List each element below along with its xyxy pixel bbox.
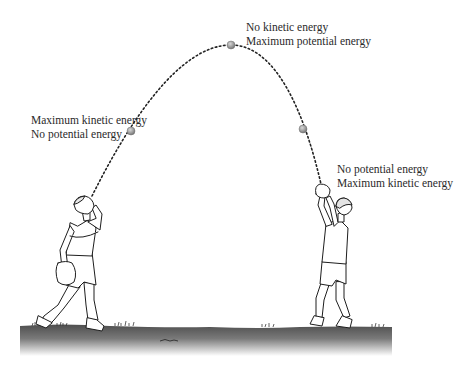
- apex-label-line2: Maximum potential energy: [246, 34, 371, 48]
- catch-label-line1: No potential energy: [337, 162, 453, 176]
- ball-falling-icon: [299, 125, 307, 133]
- catch-energy-label: No potential energy Maximum kinetic ener…: [337, 162, 453, 190]
- thrower-figure: [36, 196, 104, 331]
- launch-energy-label: Maximum kinetic energy No potential ener…: [31, 113, 147, 141]
- ball-apex-icon: [227, 41, 235, 49]
- launch-label-line1: Maximum kinetic energy: [31, 113, 147, 127]
- catcher-figure: [310, 184, 352, 328]
- launch-label-line2: No potential energy: [31, 127, 147, 141]
- catch-label-line2: Maximum kinetic energy: [337, 176, 453, 190]
- apex-label-line1: No kinetic energy: [246, 20, 371, 34]
- apex-energy-label: No kinetic energy Maximum potential ener…: [246, 20, 371, 48]
